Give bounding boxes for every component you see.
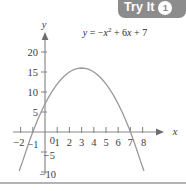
y-tick-label: 5 [33,107,38,118]
x-tick-label: 1 [55,137,60,148]
try-it-figure-panel: Try It 1 y x [0,0,186,191]
y-tick-label: 15 [28,67,39,78]
equation-annotation: y = −x2 + 6x + 7 [82,26,147,38]
x-axis-tick-labels: −2 −1 1 2 3 4 5 6 7 8 [13,137,146,150]
parabola-curve [19,68,143,170]
y-tick-label: 10 [28,87,39,98]
y-tick-label: −10 [40,169,56,178]
parabola-graph-figure: y x 20 15 10 5 [0,14,186,178]
x-axis-title: x [172,126,178,137]
x-tick-label: 8 [141,137,146,148]
coordinate-plane-svg: y x 20 15 10 5 [0,14,186,178]
x-tick-label: 3 [79,137,84,148]
y-axis-title: y [41,19,47,30]
y-axis-arrowhead [42,32,49,40]
try-it-badge-number: 1 [158,1,172,15]
x-tick-label: 2 [67,137,72,148]
y-tick-label: 20 [28,47,39,58]
x-tick-label: 4 [91,137,97,148]
x-axis-arrowhead [156,129,164,136]
bottom-divider [0,182,186,184]
x-tick-label: −2 [13,137,24,148]
y-tick-label: −5 [44,150,55,161]
x-tick-label: 5 [103,137,108,148]
x-tick-label: 6 [116,137,121,148]
try-it-badge-label: Try It [124,0,154,14]
